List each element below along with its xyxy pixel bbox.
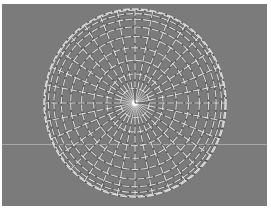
uv-sphere-wireframe[interactable] bbox=[2, 4, 267, 206]
3d-viewport[interactable] bbox=[2, 4, 267, 206]
